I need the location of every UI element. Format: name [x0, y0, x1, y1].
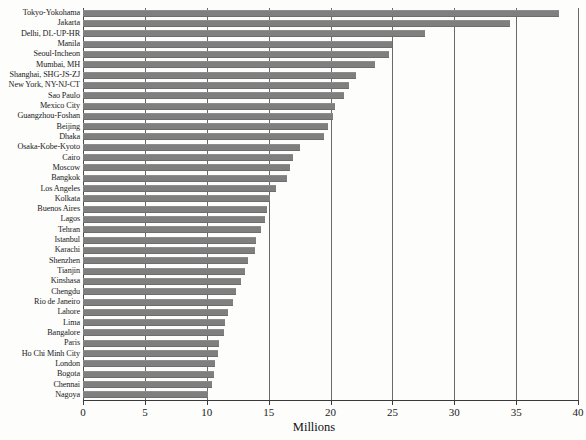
bar[interactable]	[83, 10, 559, 17]
bar[interactable]	[83, 381, 212, 388]
category-label: Osaka-Kobe-Kyoto	[2, 143, 80, 151]
category-label: Kolkata	[2, 195, 80, 203]
bar[interactable]	[83, 319, 225, 326]
bar[interactable]	[83, 123, 328, 130]
bar-row[interactable]	[83, 10, 559, 17]
bar-row[interactable]	[83, 329, 224, 336]
bar-row[interactable]	[83, 278, 241, 285]
bar[interactable]	[83, 41, 392, 48]
bar[interactable]	[83, 82, 349, 89]
bar[interactable]	[83, 340, 219, 347]
bar[interactable]	[83, 309, 228, 316]
bar[interactable]	[83, 164, 290, 171]
bar[interactable]	[83, 360, 215, 367]
category-label: Beijing	[2, 123, 80, 131]
bar-row[interactable]	[83, 257, 248, 264]
bar[interactable]	[83, 175, 287, 182]
bar-row[interactable]	[83, 309, 228, 316]
bar-row[interactable]	[83, 185, 276, 192]
bar-row[interactable]	[83, 391, 208, 398]
category-label: Tokyo-Yokohama	[2, 9, 80, 17]
bar-row[interactable]	[83, 144, 300, 151]
bar-row[interactable]	[83, 103, 335, 110]
bar-row[interactable]	[83, 247, 255, 254]
bar-row[interactable]	[83, 154, 293, 161]
bar-row[interactable]	[83, 30, 425, 37]
category-label: Lima	[2, 319, 80, 327]
x-axis-title: Millions	[0, 420, 586, 435]
bar[interactable]	[83, 154, 293, 161]
bar-row[interactable]	[83, 299, 233, 306]
x-tick-20	[331, 400, 332, 405]
bar[interactable]	[83, 329, 224, 336]
bar-row[interactable]	[83, 133, 324, 140]
bar[interactable]	[83, 72, 356, 79]
x-tick-label-30: 30	[449, 406, 460, 419]
bar-row[interactable]	[83, 237, 256, 244]
bar[interactable]	[83, 144, 300, 151]
bar[interactable]	[83, 371, 214, 378]
category-label: Guangzhou-Foshan	[2, 112, 80, 120]
bar[interactable]	[83, 350, 218, 357]
bar[interactable]	[83, 103, 335, 110]
bar-row[interactable]	[83, 113, 333, 120]
bar-row[interactable]	[83, 360, 215, 367]
bar-row[interactable]	[83, 20, 510, 27]
bar[interactable]	[83, 185, 276, 192]
category-label: Chengdu	[2, 288, 80, 296]
bar[interactable]	[83, 257, 248, 264]
bar-row[interactable]	[83, 371, 214, 378]
bar-row[interactable]	[83, 164, 290, 171]
bar[interactable]	[83, 61, 375, 68]
gridline-30	[454, 8, 455, 400]
category-label: Dhaka	[2, 133, 80, 141]
bar-row[interactable]	[83, 381, 212, 388]
category-label: Shanghai, SHG-JS-ZJ	[2, 71, 80, 79]
bar-row[interactable]	[83, 123, 328, 130]
category-label: Manila	[2, 40, 80, 48]
category-label: Kinshasa	[2, 277, 80, 285]
bar-row[interactable]	[83, 195, 270, 202]
gridline-35	[516, 8, 517, 400]
bar-row[interactable]	[83, 41, 392, 48]
bar-row[interactable]	[83, 340, 219, 347]
bar[interactable]	[83, 278, 241, 285]
category-label: Mexico City	[2, 102, 80, 110]
bar-row[interactable]	[83, 268, 245, 275]
category-label: Sao Paulo	[2, 92, 80, 100]
bar-row[interactable]	[83, 319, 225, 326]
bar-row[interactable]	[83, 92, 344, 99]
bar[interactable]	[83, 113, 333, 120]
x-tick-5	[145, 400, 146, 405]
bar[interactable]	[83, 391, 208, 398]
bar-row[interactable]	[83, 226, 261, 233]
bar[interactable]	[83, 195, 270, 202]
category-label: Rio de Janeiro	[2, 298, 80, 306]
bar-row[interactable]	[83, 82, 349, 89]
bar[interactable]	[83, 206, 267, 213]
bar[interactable]	[83, 299, 233, 306]
bar-row[interactable]	[83, 61, 375, 68]
bar-row[interactable]	[83, 216, 265, 223]
x-tick-label-15: 15	[263, 406, 274, 419]
bar[interactable]	[83, 92, 344, 99]
bar[interactable]	[83, 133, 324, 140]
bar-row[interactable]	[83, 288, 236, 295]
bar[interactable]	[83, 226, 261, 233]
bar[interactable]	[83, 216, 265, 223]
bar-row[interactable]	[83, 51, 389, 58]
bar-row[interactable]	[83, 175, 287, 182]
x-tick-35	[516, 400, 517, 405]
bar[interactable]	[83, 237, 256, 244]
bar[interactable]	[83, 20, 510, 27]
bar[interactable]	[83, 30, 425, 37]
bar[interactable]	[83, 247, 255, 254]
bar[interactable]	[83, 51, 389, 58]
x-tick-label-5: 5	[142, 406, 148, 419]
bar[interactable]	[83, 268, 245, 275]
bar-row[interactable]	[83, 206, 267, 213]
x-tick-label-0: 0	[80, 406, 86, 419]
bar-row[interactable]	[83, 350, 218, 357]
bar[interactable]	[83, 288, 236, 295]
bar-row[interactable]	[83, 72, 356, 79]
